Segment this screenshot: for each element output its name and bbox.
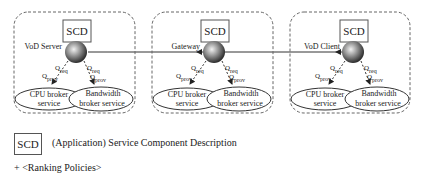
q-prov-cpu: Qprov — [42, 72, 58, 82]
svg-text:service: service — [38, 99, 61, 108]
legend-scd-box: SCD — [14, 133, 42, 155]
q-prov-bw: Qprov — [229, 73, 245, 83]
svg-text:Bandwidth: Bandwidth — [223, 89, 258, 98]
component-sphere — [342, 41, 364, 63]
node-vod-client: SCD VoD Client Qreq Qprov Qreq Qprov CPU… — [290, 12, 410, 113]
svg-text:service: service — [176, 99, 199, 108]
svg-text:service: service — [314, 99, 337, 108]
node-label: Gateway — [172, 42, 200, 51]
node-label: VoD Server — [25, 42, 63, 51]
q-prov-bw: Qprov — [90, 73, 106, 83]
node-label: VoD Client — [304, 42, 341, 51]
component-sphere — [203, 41, 225, 63]
node-vod-server: SCD VoD Server Qreq Qprov Qreq Qprov CPU… — [14, 12, 135, 113]
q-req-cpu: Qreq — [191, 64, 204, 74]
legend-ranking-policies: + <Ranking Policies> — [14, 162, 101, 173]
svg-text:Bandwidth: Bandwidth — [85, 89, 120, 98]
svg-text:broker service: broker service — [355, 99, 401, 108]
q-prov-bw: Qprov — [367, 73, 383, 83]
diagram-canvas: SCD VoD Server Qreq Qprov Qreq Qprov CPU… — [0, 0, 423, 178]
node-gateway: SCD Gateway Qreq Qprov Qreq Qprov CPU br… — [152, 12, 273, 113]
legend-scd-description: (Application) Service Component Descript… — [52, 137, 237, 148]
scd-label: SCD — [343, 25, 364, 37]
q-req-cpu: Qreq — [55, 64, 68, 74]
q-req-cpu: Qreq — [330, 64, 343, 74]
q-prov-cpu: Qprov — [176, 72, 192, 82]
scd-label: SCD — [66, 25, 87, 37]
svg-text:CPU broker: CPU broker — [30, 90, 69, 99]
svg-text:CPU broker: CPU broker — [168, 90, 207, 99]
component-sphere — [65, 41, 87, 63]
svg-text:broker service: broker service — [217, 99, 263, 108]
svg-text:CPU broker: CPU broker — [306, 90, 345, 99]
q-prov-cpu: Qprov — [315, 72, 331, 82]
svg-text:Bandwidth: Bandwidth — [361, 89, 396, 98]
scd-label: SCD — [204, 25, 225, 37]
svg-text:broker service: broker service — [79, 99, 125, 108]
